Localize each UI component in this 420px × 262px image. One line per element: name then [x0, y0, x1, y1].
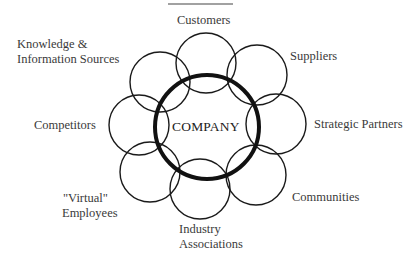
company-label: COMPANY — [172, 119, 240, 134]
circle-communities — [226, 145, 286, 205]
label-virtual-line1: "Virtual" — [62, 191, 118, 206]
circle-customers — [176, 33, 236, 93]
circle-virtual-employees — [120, 142, 180, 202]
label-knowledge-line1: Knowledge & — [17, 37, 119, 52]
label-virtual-employees: "Virtual" Employees — [62, 191, 118, 221]
circle-suppliers — [227, 45, 287, 105]
label-industry-line2: Associations — [179, 237, 243, 252]
label-industry-associations: Industry Associations — [179, 222, 243, 252]
label-customers: Customers — [177, 13, 230, 28]
label-suppliers: Suppliers — [290, 49, 337, 64]
label-knowledge-information-sources: Knowledge & Information Sources — [17, 37, 119, 67]
label-knowledge-line2: Information Sources — [17, 52, 119, 67]
label-communities: Communities — [292, 190, 359, 205]
label-virtual-line2: Employees — [62, 206, 118, 221]
label-competitors: Competitors — [34, 118, 96, 133]
circle-industry-associations — [170, 159, 230, 219]
label-strategic-partners: Strategic Partners — [314, 117, 403, 132]
label-industry-line1: Industry — [179, 222, 243, 237]
